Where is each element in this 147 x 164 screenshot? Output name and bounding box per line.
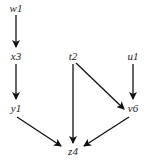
node-z4: z4 [67, 145, 78, 157]
node-x3: x3 [10, 50, 22, 62]
node-t2: t2 [69, 50, 78, 62]
edge-t2-v6 [76, 63, 124, 109]
node-y1: y1 [10, 102, 21, 114]
node-u1: u1 [128, 50, 139, 62]
dag-diagram: w1 x3 y1 t2 u1 v6 z4 [0, 0, 147, 164]
edge-y1-z4 [17, 117, 61, 146]
node-v6: v6 [128, 102, 139, 114]
edge-v6-z4 [84, 117, 129, 146]
node-w1: w1 [10, 2, 23, 14]
